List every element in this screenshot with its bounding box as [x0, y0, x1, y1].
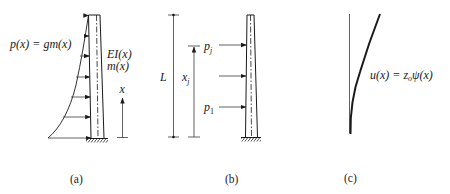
caption-b: (b)	[225, 173, 239, 186]
height-axis-a: x	[117, 82, 128, 138]
tower-a	[89, 15, 105, 138]
panel-b: L xj pj p1	[159, 14, 261, 186]
load-label: p(x) = gm(x)	[9, 37, 71, 51]
tower-b	[246, 15, 258, 137]
centerline-b	[251, 15, 252, 137]
mode-shape-label: u(x) = zoψ(x)	[370, 68, 433, 83]
height-label: L	[159, 70, 167, 84]
load-top-label: pj	[203, 39, 213, 55]
panel-c: u(x) = zoψ(x) (c)	[344, 14, 433, 185]
load-distribution-curve	[48, 15, 89, 138]
fixed-support-a	[86, 139, 108, 143]
panel-a: p(x) = gm(x) EI(x) m(x) x (a)	[9, 15, 132, 186]
caption-a: (a)	[70, 173, 83, 186]
centerline-a	[97, 15, 99, 138]
axis-x-label: x	[119, 82, 126, 96]
caption-c: (c)	[344, 172, 357, 185]
height-dimension-L	[168, 14, 179, 139]
load-bottom-label: p1	[203, 100, 214, 116]
load-arrows-a	[48, 16, 91, 139]
figure-canvas: p(x) = gm(x) EI(x) m(x) x (a) L xj	[0, 0, 450, 194]
figure: p(x) = gm(x) EI(x) m(x) x (a) L xj	[0, 0, 450, 194]
point-loads-b	[219, 45, 247, 107]
fixed-support-b	[241, 138, 261, 142]
mass-label: m(x)	[107, 59, 129, 73]
position-dimension-xj	[188, 46, 200, 137]
position-label: xj	[181, 70, 190, 86]
